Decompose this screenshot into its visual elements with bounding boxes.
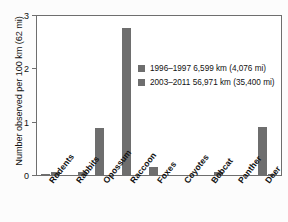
legend-item: 1996–1997 6,599 km (4,076 mi) (138, 61, 275, 75)
bar (95, 128, 104, 176)
x-axis-labels: RodentsRabbitsOpossumRaccoonFoxesCoyotes… (37, 176, 281, 222)
bar-group (254, 16, 281, 176)
bar (258, 127, 267, 176)
legend-swatch-icon (138, 79, 145, 86)
y-tick: 3 (0, 11, 36, 21)
y-tick: 0 (0, 171, 36, 181)
legend-item: 2003–2011 56,971 km (35,400 mi) (138, 75, 275, 89)
bar-group (37, 16, 64, 176)
y-tick-label: 3 (24, 11, 29, 21)
bar-group (227, 16, 254, 176)
plot-area (37, 16, 281, 176)
y-tick: 1 (0, 118, 36, 128)
legend-swatch-icon (138, 65, 145, 72)
legend-label: 2003–2011 56,971 km (35,400 mi) (150, 78, 275, 87)
legend-label: 1996–1997 6,599 km (4,076 mi) (150, 64, 266, 73)
y-tick-label: 2 (24, 64, 29, 74)
y-tick: 2 (0, 64, 36, 74)
bar-group (91, 16, 118, 176)
y-tick-label: 1 (24, 118, 29, 128)
chart-figure: Number observed per 100 km (62 mi) 0123 … (0, 0, 288, 222)
bar-group (173, 16, 200, 176)
y-axis-title: Number observed per 100 km (62 mi) (14, 3, 24, 179)
y-tick-label: 0 (24, 171, 29, 181)
chart-legend: 1996–1997 6,599 km (4,076 mi) 2003–2011 … (138, 61, 275, 89)
